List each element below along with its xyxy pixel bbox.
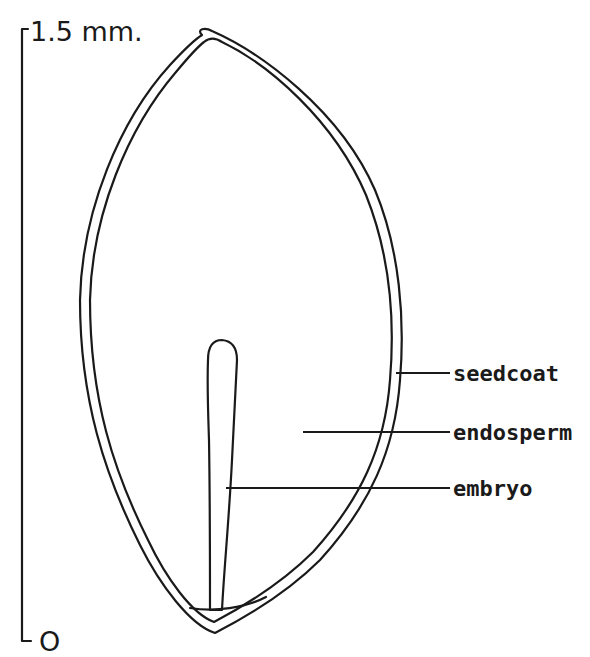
embryo-outline (208, 340, 237, 610)
seedcoat-outer (80, 29, 402, 633)
embryo-shape (208, 340, 237, 610)
scale-bar: 1.5 mm. O (22, 16, 143, 657)
seed-diagram: 1.5 mm. O seedcoat endosperm embryo (0, 0, 590, 657)
seedcoat-label: seedcoat (453, 361, 559, 386)
scale-top-label: 1.5 mm. (30, 16, 143, 47)
embryo-label: embryo (453, 476, 532, 501)
endosperm-label: endosperm (453, 420, 572, 445)
scale-bottom-label: O (39, 626, 60, 657)
scale-bar-line (22, 29, 31, 641)
seedcoat-outline (80, 29, 402, 633)
